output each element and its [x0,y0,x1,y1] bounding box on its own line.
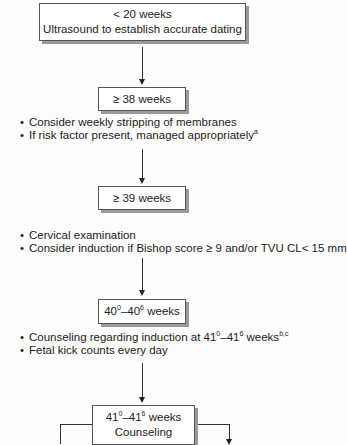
notes-after-40-weeks: Counseling regarding induction at 410–41… [20,331,288,357]
node-1-line-2: Ultrasound to establish accurate dating [43,22,242,37]
node-2-label: ≥ 38 weeks [113,92,171,107]
notes-after-38-weeks: Consider weekly stripping of membranes I… [20,116,258,142]
connector-4-5 [142,363,143,398]
connector-2-3 [142,149,143,179]
note-item: Counseling regarding induction at 410–41… [20,331,288,344]
note-item: Cervical examination [20,229,347,242]
node-1-line-1: < 20 weeks [113,7,172,22]
note-item: Consider weekly stripping of membranes [20,116,258,129]
note-item: Consider induction if Bishop score ≥ 9 a… [20,242,347,255]
note-item: Fetal kick counts every day [20,344,288,357]
node-3-label: ≥ 39 weeks [113,191,171,206]
node-4-label: 400–406 weeks [104,304,180,319]
node-39-weeks: ≥ 39 weeks [98,186,186,210]
node-40-weeks: 400–406 weeks [98,299,186,324]
branch-left-horizontal [60,424,92,425]
footnote-marker: b,c [279,330,288,337]
node-5-line-2: Counseling [115,425,173,440]
arrow-down-icon [226,439,232,445]
connector-1-2 [142,47,143,80]
branch-right-vertical [229,424,230,440]
node-38-weeks: ≥ 38 weeks [98,87,186,111]
node-less-than-20-weeks: < 20 weeks Ultrasound to establish accur… [39,3,246,41]
node-5-line-1: 410–416 weeks [106,410,182,425]
branch-left-vertical [60,424,61,444]
node-41-weeks-counseling: 410–416 weeks Counseling [92,405,195,445]
notes-after-39-weeks: Cervical examination Consider induction … [20,229,347,255]
connector-3-4 [142,258,143,291]
branch-right-horizontal [198,424,229,425]
arrow-down-icon [139,397,145,403]
arrow-down-icon [139,290,145,296]
arrow-down-icon [139,178,145,184]
arrow-down-icon [139,79,145,85]
footnote-marker: a [254,128,258,135]
note-item: If risk factor present, managed appropri… [20,129,258,142]
